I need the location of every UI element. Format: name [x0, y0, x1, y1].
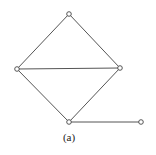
edge-top-left [17, 14, 69, 69]
edge-left-bottom [17, 69, 69, 122]
edge-right-bottom [69, 68, 120, 122]
node-left [15, 67, 20, 72]
node-top [67, 12, 72, 17]
figure-caption: (a) [0, 131, 156, 143]
edge-left-right [17, 68, 120, 69]
edge-top-right [69, 14, 120, 68]
figure-canvas: (a) [0, 0, 156, 155]
node-bottom [67, 120, 72, 125]
node-right [118, 66, 123, 71]
node-tail [139, 120, 144, 125]
